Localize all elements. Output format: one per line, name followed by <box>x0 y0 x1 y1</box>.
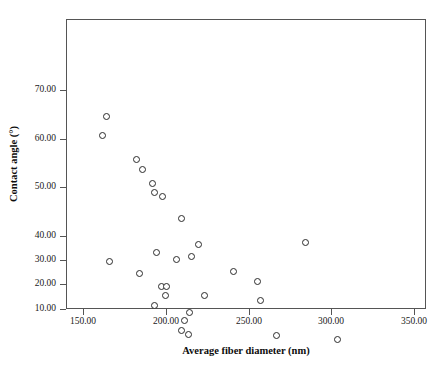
y-axis-tick <box>60 284 66 285</box>
x-axis-tick-label: 150.00 <box>53 317 113 327</box>
scatter-point <box>162 292 169 299</box>
x-axis-tick <box>83 309 84 315</box>
y-axis-tick <box>60 90 66 91</box>
scatter-point <box>178 215 185 222</box>
x-axis-tick <box>249 309 250 315</box>
y-axis-tick-label: 60.00 <box>0 134 56 144</box>
scatter-point <box>159 193 166 200</box>
scatter-point <box>139 166 146 173</box>
scatter-point <box>173 256 180 263</box>
scatter-point <box>151 189 158 196</box>
scatter-point <box>254 278 261 285</box>
y-axis-tick-label: 10.00 <box>0 304 56 314</box>
scatter-points-layer <box>67 20 425 308</box>
y-axis-tick-label: 70.00 <box>0 85 56 95</box>
scatter-point <box>133 156 140 163</box>
scatter-point <box>163 283 170 290</box>
scatter-point <box>106 258 113 265</box>
y-axis-title-wrap: Contact angle (°) <box>4 19 23 309</box>
y-axis-tick-label: 40.00 <box>0 231 56 241</box>
x-axis-tick <box>166 309 167 315</box>
scatter-point <box>302 239 309 246</box>
scatter-point <box>151 302 158 309</box>
scatter-point <box>230 268 237 275</box>
x-axis-tick-label: 300.00 <box>301 317 361 327</box>
scatter-point <box>186 309 193 316</box>
y-axis-tick <box>60 309 66 310</box>
scatter-point <box>201 292 208 299</box>
y-axis-tick-label: 20.00 <box>0 279 56 289</box>
y-axis-tick <box>60 139 66 140</box>
y-axis-tick <box>60 236 66 237</box>
scatter-point <box>103 113 110 120</box>
chart-page: Contact angle (°) Average fiber diameter… <box>0 0 446 371</box>
scatter-point <box>257 297 264 304</box>
plot-area <box>66 19 426 309</box>
scatter-point <box>188 253 195 260</box>
scatter-point <box>185 331 192 338</box>
x-axis-tick-label: 350.00 <box>384 317 444 327</box>
x-axis-tick <box>331 309 332 315</box>
scatter-point <box>153 249 160 256</box>
scatter-point <box>136 270 143 277</box>
x-axis-title: Average fiber diameter (nm) <box>66 345 426 356</box>
y-axis-title: Contact angle (°) <box>4 19 23 309</box>
y-axis-tick-label: 30.00 <box>0 255 56 265</box>
x-axis-tick <box>414 309 415 315</box>
scatter-point <box>195 241 202 248</box>
y-axis-tick <box>60 260 66 261</box>
scatter-point <box>273 332 280 339</box>
x-axis-tick-label: 250.00 <box>219 317 279 327</box>
x-axis-tick-label: 200.00 <box>136 317 196 327</box>
y-axis-tick <box>60 187 66 188</box>
y-axis-tick-label: 50.00 <box>0 182 56 192</box>
scatter-point <box>149 180 156 187</box>
scatter-point <box>99 132 106 139</box>
scatter-point <box>334 336 341 343</box>
